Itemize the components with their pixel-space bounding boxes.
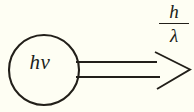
momentum-fraction-denominator: λ <box>156 24 192 46</box>
photon-momentum-diagram: hν h λ <box>0 0 194 112</box>
momentum-fraction-label: h λ <box>156 2 192 46</box>
photon-energy-label: hν <box>0 52 80 73</box>
momentum-fraction-numerator: h <box>156 2 192 23</box>
